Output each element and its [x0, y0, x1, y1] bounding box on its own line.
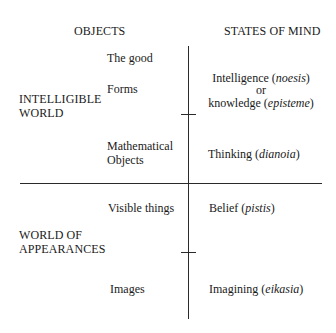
thinking-term: Thinking (	[208, 147, 259, 161]
object-mathematical-objects: Mathematical Objects	[107, 139, 173, 167]
knowledge-close: )	[310, 96, 314, 110]
belief-close: )	[271, 201, 275, 215]
belief-term: Belief (	[209, 201, 245, 215]
state-knowledge: knowledge (episteme)	[208, 96, 314, 110]
intelligence-term: Intelligence (	[212, 71, 276, 85]
intelligible-world-label: INTELLIGIBLE WORLD	[19, 92, 102, 120]
horizontal-divider	[20, 183, 322, 184]
object-the-good: The good	[107, 51, 153, 65]
objects-header: OBJECTS	[74, 24, 125, 38]
intelligence-greek: noesis	[276, 71, 306, 85]
lower-tick-mark	[181, 252, 196, 253]
imagining-greek: eikasia	[265, 282, 299, 296]
mathematical-line-1: Mathematical	[107, 139, 173, 153]
knowledge-term: knowledge (	[208, 96, 268, 110]
intelligence-close: )	[306, 71, 310, 85]
world-of-appearances-label: WORLD OF APPEARANCES	[19, 228, 105, 256]
intelligible-line-2: WORLD	[19, 106, 102, 120]
thinking-greek: dianoia	[259, 147, 296, 161]
state-imagining: Imagining (eikasia)	[209, 282, 303, 296]
state-intelligence-or-knowledge: Intelligence (noesis) or knowledge (epis…	[208, 71, 314, 110]
state-thinking: Thinking (dianoia)	[208, 147, 300, 161]
imagining-term: Imagining (	[209, 282, 265, 296]
state-belief: Belief (pistis)	[209, 201, 275, 215]
appearances-line-2: APPEARANCES	[19, 242, 105, 256]
state-or-connector: or	[208, 85, 314, 96]
states-of-mind-header: STATES OF MIND	[224, 24, 320, 38]
belief-greek: pistis	[245, 201, 270, 215]
knowledge-greek: episteme	[268, 96, 310, 110]
thinking-close: )	[296, 147, 300, 161]
object-forms: Forms	[107, 82, 138, 96]
imagining-close: )	[299, 282, 303, 296]
object-images: Images	[110, 282, 145, 296]
upper-tick-mark	[181, 114, 196, 115]
mathematical-line-2: Objects	[107, 153, 173, 167]
intelligible-line-1: INTELLIGIBLE	[19, 92, 102, 106]
object-visible-things: Visible things	[108, 201, 174, 215]
appearances-line-1: WORLD OF	[19, 228, 105, 242]
